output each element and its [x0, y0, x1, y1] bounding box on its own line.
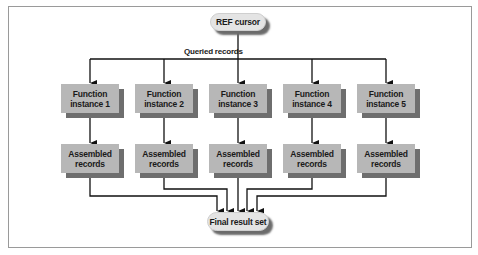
function-instance-5: Function instance 5 — [357, 84, 415, 113]
function-instance-label: Function instance 2 — [142, 89, 186, 109]
function-instance-4: Function instance 4 — [283, 84, 341, 113]
assembled-records-label: Assembled records — [361, 149, 411, 169]
assembled-records-3: Assembled records — [209, 144, 267, 173]
queried-records-label: Queried records — [184, 47, 243, 56]
final-result-set-label: Final result set — [210, 217, 267, 227]
assembled-records-1: Assembled records — [61, 144, 119, 173]
function-instance-label: Function instance 3 — [216, 89, 260, 109]
ref-cursor-label: REF cursor — [216, 17, 260, 27]
assembled-records-5: Assembled records — [357, 144, 415, 173]
function-instance-1: Function instance 1 — [61, 84, 119, 113]
assembled-records-label: Assembled records — [287, 149, 337, 169]
function-instance-label: Function instance 4 — [290, 89, 334, 109]
ref-cursor-node: REF cursor — [210, 13, 266, 31]
assembled-records-4: Assembled records — [283, 144, 341, 173]
function-instance-label: Function instance 1 — [68, 89, 112, 109]
assembled-records-2: Assembled records — [135, 144, 193, 173]
function-instance-2: Function instance 2 — [135, 84, 193, 113]
function-instance-label: Function instance 5 — [364, 89, 408, 109]
function-instance-3: Function instance 3 — [209, 84, 267, 113]
assembled-records-label: Assembled records — [213, 149, 263, 169]
final-result-set-node: Final result set — [207, 212, 269, 231]
assembled-records-label: Assembled records — [139, 149, 189, 169]
assembled-records-label: Assembled records — [65, 149, 115, 169]
